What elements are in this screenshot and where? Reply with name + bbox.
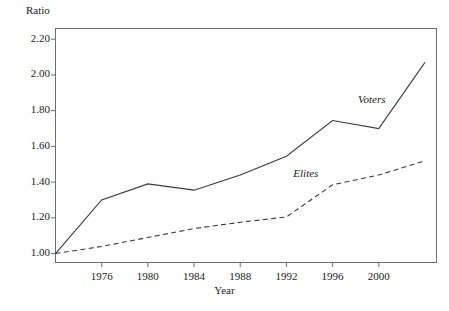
series-annotation-elites: Elites <box>293 167 318 179</box>
series-annotation-voters: Voters <box>358 93 386 105</box>
chart-figure: Ratio Year 1.001.201.401.601.802.002.20 … <box>0 0 449 311</box>
plot-area <box>0 0 449 311</box>
x-tick-marks <box>102 263 379 268</box>
y-tick-marks <box>51 39 56 253</box>
plot-frame <box>56 29 437 263</box>
